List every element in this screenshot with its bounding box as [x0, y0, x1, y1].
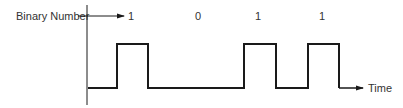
bit-label-1: 1 [128, 10, 134, 22]
binary-waveform-diagram: Binary Number 1 0 1 1 Time [0, 0, 403, 108]
time-label: Time [368, 82, 392, 94]
pulse-waveform [88, 44, 339, 88]
bit-label-3: 1 [255, 10, 261, 22]
bit-label-2: 0 [195, 10, 201, 22]
bit-label-4: 1 [319, 10, 325, 22]
